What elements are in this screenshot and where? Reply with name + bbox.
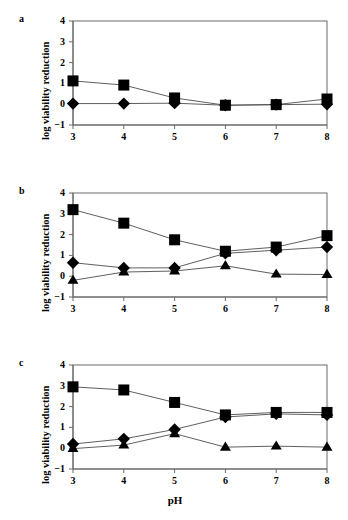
x-tick-label: 4 <box>109 304 139 314</box>
x-tick-label: 6 <box>210 476 240 486</box>
y-tick-label: −1 <box>35 292 65 302</box>
x-tick-label: 3 <box>58 304 88 314</box>
x-axis-label: pH <box>150 494 200 506</box>
y-tick-label: 4 <box>35 188 65 198</box>
x-tick-label: 7 <box>261 132 291 142</box>
x-tick-label: 8 <box>312 132 342 142</box>
y-tick-label: 2 <box>35 402 65 412</box>
panel-c: c log viability reduction pH −1012343456… <box>0 344 348 520</box>
x-tick-label: 7 <box>261 304 291 314</box>
y-tick-label: 4 <box>35 16 65 26</box>
panel-a-letter: a <box>19 14 24 24</box>
x-tick-label: 5 <box>160 476 190 486</box>
y-tick-label: −1 <box>35 120 65 130</box>
x-tick-label: 4 <box>109 476 139 486</box>
y-tick-label: 2 <box>35 58 65 68</box>
y-tick-label: −1 <box>35 464 65 474</box>
panel-b-letter: b <box>19 186 25 196</box>
x-tick-label: 6 <box>210 304 240 314</box>
y-tick-label: 0 <box>35 443 65 453</box>
panel-b: b log viability reduction −101234345678 <box>0 172 348 344</box>
x-tick-label: 4 <box>109 132 139 142</box>
y-tick-label: 1 <box>35 422 65 432</box>
y-tick-label: 0 <box>35 99 65 109</box>
x-tick-label: 3 <box>58 476 88 486</box>
y-tick-label: 3 <box>35 381 65 391</box>
figure-container: a log viability reduction −101234345678 … <box>0 0 348 520</box>
y-tick-label: 3 <box>35 37 65 47</box>
x-tick-label: 6 <box>210 132 240 142</box>
y-tick-label: 2 <box>35 230 65 240</box>
x-tick-label: 3 <box>58 132 88 142</box>
y-tick-label: 1 <box>35 250 65 260</box>
panel-a: a log viability reduction −101234345678 <box>0 0 348 172</box>
y-tick-label: 1 <box>35 78 65 88</box>
y-tick-label: 3 <box>35 209 65 219</box>
x-tick-label: 7 <box>261 476 291 486</box>
x-tick-label: 5 <box>160 132 190 142</box>
y-tick-label: 0 <box>35 271 65 281</box>
x-tick-label: 5 <box>160 304 190 314</box>
y-tick-label: 4 <box>35 360 65 370</box>
x-tick-label: 8 <box>312 304 342 314</box>
panel-c-letter: c <box>19 358 23 368</box>
x-tick-label: 8 <box>312 476 342 486</box>
